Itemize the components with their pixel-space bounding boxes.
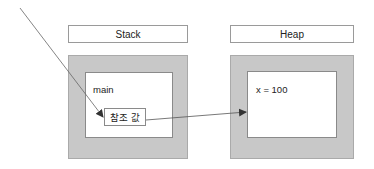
reference-to-heap-arrow xyxy=(146,112,246,120)
incoming-reference-arrow xyxy=(20,8,103,117)
arrows-layer xyxy=(0,0,374,169)
